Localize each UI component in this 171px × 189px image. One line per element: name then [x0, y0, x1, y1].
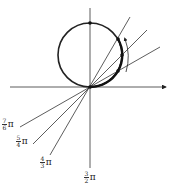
point-45deg	[120, 53, 124, 57]
pi-symbol: π	[22, 137, 28, 146]
highlighted-arc	[90, 39, 122, 87]
denominator: 6	[3, 125, 7, 131]
label-3-2-pi: 32 π	[84, 171, 96, 184]
pi-symbol: π	[8, 120, 14, 129]
label-4-3-pi: 43 π	[40, 156, 52, 169]
denominator: 3	[41, 163, 45, 169]
denominator: 4	[17, 142, 21, 148]
label-7-6-pi: 76 π	[2, 118, 14, 131]
point-60deg	[116, 37, 120, 41]
polar-diagram	[0, 0, 171, 189]
label-5-4-pi: 54 π	[16, 135, 28, 148]
pi-symbol: π	[90, 173, 96, 182]
denominator: 2	[85, 178, 89, 184]
point-top	[88, 21, 92, 25]
point-30deg	[116, 69, 120, 73]
pi-symbol: π	[46, 158, 52, 167]
point-origin	[88, 85, 92, 89]
